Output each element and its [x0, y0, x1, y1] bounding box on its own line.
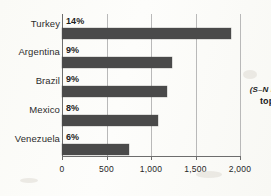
annotation-line-remittances: (S–N remitttances)	[240, 84, 271, 95]
category-label-brazil: Brazil	[0, 75, 60, 86]
category-label-argentina: Argentina	[0, 46, 60, 57]
bar-mexico[interactable]	[62, 115, 158, 126]
x-tick-500	[107, 156, 108, 160]
x-tick-label-500: 500	[99, 164, 114, 174]
category-label-venezuela: Venezuela	[0, 133, 60, 144]
x-tick-0	[62, 156, 63, 160]
category-label-mexico: Mexico	[0, 104, 60, 115]
scan-artifact	[243, 70, 257, 79]
x-tick-1000	[151, 156, 152, 160]
annotation-line-top-sending: top sending	[240, 95, 271, 107]
x-tick-1500	[196, 156, 197, 160]
bar-chart: Turkey Argentina Brazil Mexico Venezuela…	[0, 0, 271, 196]
data-label-venezuela: 6%	[66, 132, 79, 142]
data-label-mexico: 8%	[66, 103, 79, 113]
bar-turkey[interactable]	[62, 28, 231, 39]
x-tick-2000	[240, 156, 241, 160]
x-tick-label-0: 0	[60, 164, 65, 174]
plot-area: 0 500 1,000 1,500 2,000 14% 9% 9% 8% 6% …	[62, 14, 240, 156]
data-label-brazil: 9%	[66, 74, 79, 84]
scan-artifact	[196, 171, 222, 178]
data-label-argentina: 9%	[66, 45, 79, 55]
bar-venezuela[interactable]	[62, 144, 129, 155]
data-label-turkey: 14%	[66, 16, 84, 26]
scan-artifact	[20, 178, 38, 183]
x-tick-label-1000: 1,000	[140, 164, 162, 174]
category-label-turkey: Turkey	[0, 18, 60, 29]
bar-argentina[interactable]	[62, 57, 172, 68]
bar-brazil[interactable]	[62, 86, 167, 97]
x-tick-label-2000: 2,000	[229, 164, 251, 174]
